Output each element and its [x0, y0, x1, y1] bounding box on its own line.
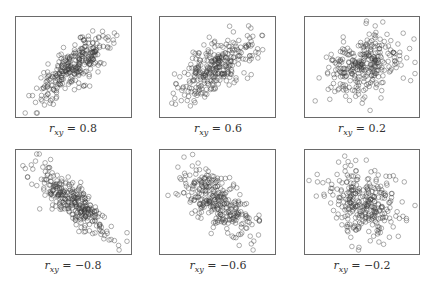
scatter-points	[160, 17, 275, 117]
scatter-points	[305, 17, 419, 117]
scatter-plot	[15, 16, 132, 118]
scatter-plot	[159, 16, 276, 118]
correlation-caption: rxy = 0.8	[3, 122, 143, 137]
scatter-plot	[15, 149, 132, 255]
scatter-plot	[304, 16, 420, 118]
scatter-points	[16, 150, 131, 254]
correlation-caption: rxy = 0.2	[292, 122, 432, 137]
correlation-caption: rxy = 0.6	[148, 122, 288, 137]
scatter-points	[16, 17, 131, 117]
scatter-plot	[159, 149, 276, 255]
correlation-caption: rxy = −0.6	[148, 259, 288, 274]
scatter-points	[160, 150, 275, 254]
correlation-caption: rxy = −0.2	[292, 259, 432, 274]
scatter-plot	[304, 149, 420, 255]
correlation-caption: rxy = −0.8	[3, 259, 143, 274]
scatter-points	[305, 150, 419, 254]
